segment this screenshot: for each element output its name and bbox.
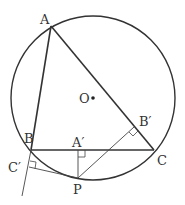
side-ab <box>31 26 51 150</box>
center-dot <box>91 96 95 100</box>
label-b-prime: B′ <box>139 114 152 129</box>
perp-pb1 <box>78 127 134 178</box>
extension-ab <box>22 150 31 196</box>
label-c: C <box>157 153 167 168</box>
side-ac <box>51 26 154 150</box>
simson-line-diagram: A B C P A′ B′ C′ O <box>0 0 185 205</box>
label-a: A <box>39 12 50 27</box>
label-c-prime: C′ <box>8 160 21 175</box>
label-p: P <box>73 182 82 197</box>
perp-pc1 <box>29 167 78 178</box>
right-angle-b1 <box>129 131 138 136</box>
right-angle-a1 <box>78 150 85 157</box>
label-a-prime: A′ <box>71 135 84 150</box>
label-o: O <box>79 91 90 106</box>
label-b: B <box>24 131 34 146</box>
